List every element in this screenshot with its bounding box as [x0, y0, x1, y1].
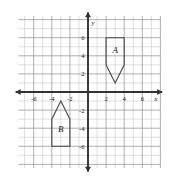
y-tick-label: -6: [79, 143, 85, 150]
y-tick-label: -2: [79, 107, 85, 114]
x-tick-label: -4: [49, 95, 55, 102]
x-tick-label: 2: [104, 95, 107, 102]
x-axis-arrow-left-icon: [16, 89, 21, 95]
y-tick-label: 2: [81, 70, 84, 77]
x-axis-arrow-right-icon: [157, 89, 162, 95]
x-tick-label: -6: [31, 95, 37, 102]
shape-label-a: A: [111, 45, 118, 55]
x-tick-label: 6: [141, 95, 145, 102]
x-tick-label: 4: [123, 95, 127, 102]
x-tick-label: -2: [67, 95, 73, 102]
y-axis-arrow-down-icon: [85, 167, 91, 172]
shape-label-b: B: [58, 124, 64, 134]
y-axis-label: y: [91, 19, 96, 27]
axes: [16, 12, 163, 171]
coordinate-plane-figure: -6-4-2246 642-2-4-6 x y AB: [0, 0, 183, 182]
y-tick-label: -4: [79, 125, 85, 132]
y-axis-arrow-up-icon: [85, 12, 91, 17]
coordinate-plane-svg: -6-4-2246 642-2-4-6 x y AB: [0, 0, 183, 182]
